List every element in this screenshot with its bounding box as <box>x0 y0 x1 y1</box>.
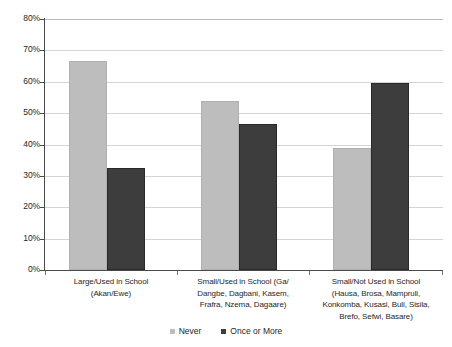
plot-area <box>45 19 443 270</box>
category-label-line: Brefo, Sefwi, Basare) <box>309 311 443 323</box>
bar-never-group2 <box>201 101 239 270</box>
legend-label: Once or More <box>230 326 282 336</box>
category-label-group1: Large/Used in School (Akan/Ewe) <box>45 276 177 299</box>
y-tick-label: 20% <box>4 202 40 211</box>
bar-once-or-more-group1 <box>107 168 145 270</box>
category-label-line: Small/Used in School (Ga/ <box>177 276 309 288</box>
grid-line <box>45 19 443 20</box>
x-axis-tick <box>309 271 310 275</box>
y-tick-label: 40% <box>4 140 40 149</box>
category-label-line: Dangbe, Dagbani, Kasem, <box>177 288 309 300</box>
y-axis-labels: 80% 70% 60% 50% 40% 30% 20% 10% 0% <box>0 0 40 347</box>
y-tick-label: 70% <box>4 45 40 54</box>
category-label-line: (Hausa, Brosa, Mampruli, <box>309 288 443 300</box>
bar-never-group3 <box>333 148 371 270</box>
category-label-line: Small/Not Used in School <box>309 276 443 288</box>
legend-item-once-or-more: Once or More <box>221 326 282 336</box>
x-axis-tick <box>442 271 443 275</box>
y-tick-label: 80% <box>4 14 40 23</box>
grid-line <box>45 50 443 51</box>
bar-once-or-more-group3 <box>371 83 409 270</box>
x-axis-tick <box>177 271 178 275</box>
category-label-group2: Small/Used in School (Ga/ Dangbe, Dagban… <box>177 276 309 311</box>
bar-once-or-more-group2 <box>239 124 277 270</box>
x-axis-category-labels: Large/Used in School (Akan/Ewe) Small/Us… <box>45 276 443 322</box>
bar-chart: 80% 70% 60% 50% 40% 30% 20% 10% 0% <box>0 0 452 347</box>
bar-never-group1 <box>69 61 107 270</box>
y-tick-label: 60% <box>4 77 40 86</box>
category-label-line: Konkomba, Kusasi, Buli, Sisila, <box>309 299 443 311</box>
y-tick-label: 30% <box>4 171 40 180</box>
legend-item-never: Never <box>170 326 202 336</box>
legend-swatch-icon <box>221 329 226 334</box>
y-axis-line <box>44 18 45 271</box>
category-label-line: Large/Used in School <box>45 276 177 288</box>
category-label-line: (Akan/Ewe) <box>45 288 177 300</box>
legend-label: Never <box>179 326 202 336</box>
y-tick-label: 0% <box>4 265 40 274</box>
category-label-group3: Small/Not Used in School (Hausa, Brosa, … <box>309 276 443 322</box>
x-axis-tick <box>45 271 46 275</box>
legend-swatch-icon <box>170 329 175 334</box>
x-axis-line <box>44 270 443 271</box>
category-label-line: Frafra, Nzema, Dagaare) <box>177 299 309 311</box>
y-tick-label: 10% <box>4 234 40 243</box>
y-tick-label: 50% <box>4 108 40 117</box>
chart-legend: Never Once or More <box>0 326 452 336</box>
